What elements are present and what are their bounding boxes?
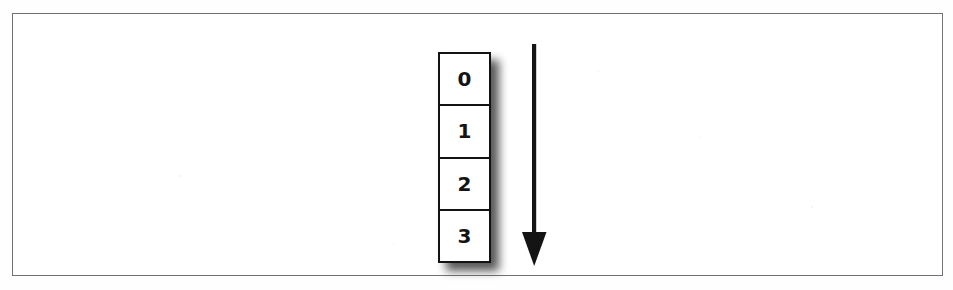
downward-direction-arrow	[518, 44, 552, 266]
stack-cell-label: 2	[457, 174, 471, 194]
figure-frame: 0 1 2 3	[12, 13, 943, 276]
stack-cell-label: 0	[457, 69, 471, 89]
stack-cell: 1	[440, 106, 489, 158]
stack-cell-label: 1	[457, 121, 471, 141]
stack-cell: 3	[440, 211, 489, 261]
stack-cell: 2	[440, 159, 489, 211]
stack-cell-label: 3	[457, 226, 471, 246]
figure-root: 0 1 2 3	[0, 0, 953, 290]
stack-cell: 0	[440, 54, 489, 106]
indexed-cell-stack: 0 1 2 3	[438, 52, 491, 263]
